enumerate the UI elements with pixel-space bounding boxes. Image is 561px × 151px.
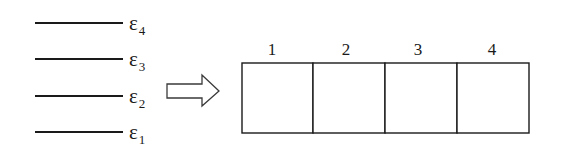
subscript: 3 [139,59,146,74]
box-label-4: 4 [488,40,497,59]
box-2 [313,63,385,133]
box-label-3: 3 [414,40,423,59]
box-row: 1 2 3 4 [242,40,529,133]
box-3 [385,63,457,133]
subscript: 4 [139,23,146,38]
subscript: 2 [139,96,146,111]
energy-level-diagram: ε4 ε3 ε2 ε1 1 2 3 4 [0,0,561,151]
energy-level-label-3: ε3 [129,47,145,74]
energy-level-label-2: ε2 [129,84,145,111]
hollow-right-arrow-icon [167,75,219,106]
energy-level-label-4: ε4 [129,11,146,38]
subscript: 1 [139,132,146,147]
box-label-2: 2 [342,40,351,59]
box-1 [242,63,313,133]
box-4 [457,63,529,133]
energy-level-label-1: ε1 [129,120,145,147]
energy-levels: ε4 ε3 ε2 ε1 [35,11,146,147]
box-label-1: 1 [268,40,277,59]
